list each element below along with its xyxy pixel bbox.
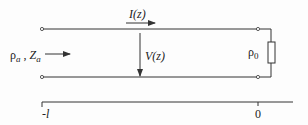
axis-start-label: -l — [42, 108, 49, 120]
load-resistor — [268, 42, 275, 63]
load-label: ρ0 — [248, 46, 259, 61]
source-params-label: ρa , Za — [10, 49, 41, 64]
axis-end-label: 0 — [255, 108, 261, 120]
transmission-line-diagram: I(z) V(z) ρa , Za ρ0 -l 0 — [0, 0, 308, 125]
bottom-conductor — [40, 63, 271, 79]
voltage-label: V(z) — [145, 50, 165, 62]
current-label: I(z) — [129, 8, 146, 20]
top-conductor — [40, 27, 271, 42]
